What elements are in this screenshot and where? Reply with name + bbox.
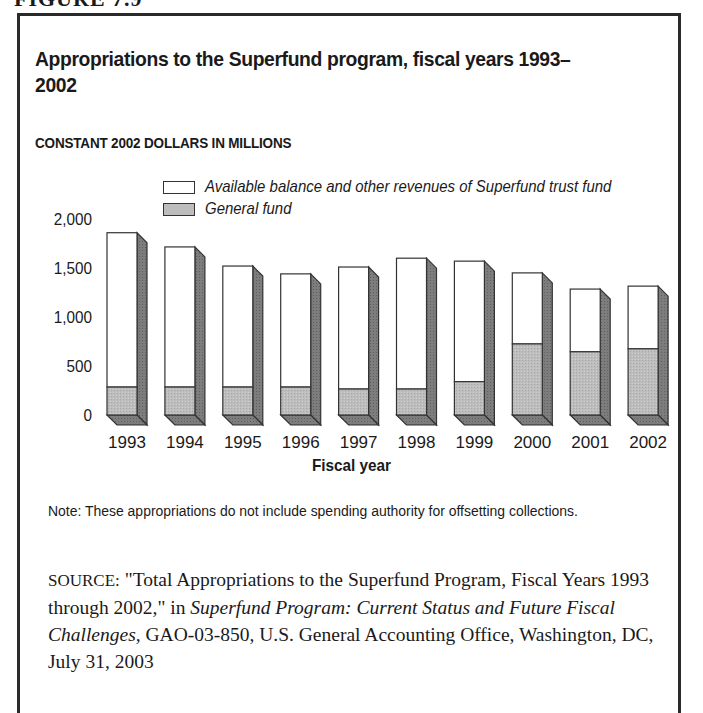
bar-segment-trust-fund (397, 258, 427, 389)
bar-segment-trust-fund (107, 233, 137, 387)
x-tick-label: 1993 (108, 433, 146, 452)
bar-1994 (165, 247, 205, 425)
bar-1993 (107, 233, 147, 425)
bar-side-face (484, 261, 494, 425)
bar-side-face (427, 258, 437, 425)
x-axis: 1993199419951996199719981999200020012002 (108, 433, 667, 452)
bar-segment-trust-fund (512, 273, 542, 344)
y-tick-label: 500 (66, 356, 92, 375)
bars (107, 233, 668, 425)
bar-1998 (397, 258, 437, 425)
x-tick-label: 1995 (224, 433, 262, 452)
bar-segment-general-fund (107, 387, 137, 415)
bar-segment-general-fund (223, 387, 253, 415)
y-tick-label: 1,000 (54, 307, 92, 326)
bar-segment-general-fund (397, 389, 427, 415)
y-tick-label: 2,000 (54, 209, 92, 228)
bar-1996 (281, 274, 321, 425)
bar-2001 (570, 289, 610, 425)
bar-segment-general-fund (165, 387, 195, 415)
bar-side-face (311, 274, 321, 425)
bar-1999 (454, 261, 494, 425)
bar-segment-trust-fund (165, 247, 195, 387)
bar-side-face (369, 267, 379, 425)
bar-side-face (253, 266, 263, 425)
bar-segment-trust-fund (223, 266, 253, 387)
bar-2000 (512, 273, 552, 425)
bar-side-face (195, 247, 205, 425)
y-tick-label: 1,500 (54, 258, 92, 277)
y-axis: 05001,0001,5002,000 (54, 209, 92, 424)
source-prefix: SOURCE: (48, 571, 120, 590)
bar-side-face (600, 289, 610, 425)
bar-segment-general-fund (281, 387, 311, 415)
bar-segment-general-fund (512, 344, 542, 415)
x-tick-label: 1996 (282, 433, 320, 452)
bar-segment-trust-fund (339, 267, 369, 389)
bar-segment-general-fund (339, 389, 369, 415)
source-citation: SOURCE: "Total Appropriations to the Sup… (48, 566, 688, 675)
bar-1995 (223, 266, 263, 425)
bar-segment-trust-fund (628, 286, 658, 349)
x-axis-title: Fiscal year (35, 456, 668, 476)
x-tick-label: 1998 (398, 433, 436, 452)
bar-segment-trust-fund (570, 289, 600, 352)
x-tick-label: 2002 (629, 433, 667, 452)
bar-segment-trust-fund (281, 274, 311, 387)
bar-side-face (542, 273, 552, 425)
x-tick-label: 1994 (166, 433, 204, 452)
bar-segment-general-fund (570, 352, 600, 415)
bar-1997 (339, 267, 379, 425)
y-tick-label: 0 (83, 405, 92, 424)
bar-segment-general-fund (454, 382, 484, 415)
bar-side-face (137, 233, 147, 425)
bar-segment-trust-fund (454, 261, 484, 382)
bar-segment-general-fund (628, 349, 658, 415)
bar-2002 (628, 286, 668, 425)
x-tick-label: 1999 (455, 433, 493, 452)
bar-side-face (658, 286, 668, 425)
x-tick-label: 2000 (513, 433, 551, 452)
x-tick-label: 2001 (571, 433, 609, 452)
x-tick-label: 1997 (340, 433, 378, 452)
chart-note: Note: These appropriations do not includ… (48, 500, 588, 521)
